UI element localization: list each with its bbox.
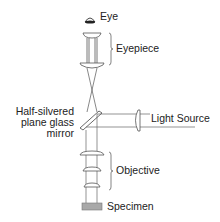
eyepiece-bracket: [109, 33, 113, 65]
objective-assembly: [80, 151, 104, 187]
specimen-label: Specimen: [107, 201, 154, 212]
mirror-label-line3: mirror: [16, 128, 74, 139]
eyepiece-top-lens: [83, 33, 101, 38]
eyepiece-assembly: [80, 33, 104, 68]
light-source-lens: [136, 110, 141, 131]
light-source-label: Light Source: [150, 113, 211, 124]
objective-lens-3: [84, 183, 100, 187]
objective-bracket: [109, 152, 113, 190]
objective-lens-1: [80, 151, 104, 155]
objective-lens-2: [83, 167, 101, 171]
eyepiece-label: Eyepiece: [116, 43, 159, 54]
eyepiece-bottom-lens: [80, 63, 104, 68]
mirror-label: Half-silvered plane glass mirror: [16, 106, 74, 139]
specimen-block: [82, 203, 102, 210]
objective-label: Objective: [116, 165, 160, 176]
eye-icon: [85, 18, 95, 24]
crossed-rays: [87, 68, 97, 112]
eye-label: Eye: [100, 11, 118, 22]
